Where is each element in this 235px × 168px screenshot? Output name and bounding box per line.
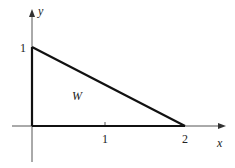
y-axis-arrow-icon: [29, 9, 35, 17]
diagram-canvas: y 1 W 1 2 x: [0, 0, 235, 168]
region-label: W: [72, 89, 83, 103]
x-axis-label: x: [216, 136, 223, 150]
x-axis-arrow-icon: [218, 123, 226, 129]
x-tick-label-1: 1: [102, 132, 108, 146]
y-tick-label-1: 1: [20, 41, 26, 55]
x-tick-label-2: 2: [182, 132, 188, 146]
y-axis-label: y: [37, 4, 44, 18]
region-w: [32, 47, 185, 126]
